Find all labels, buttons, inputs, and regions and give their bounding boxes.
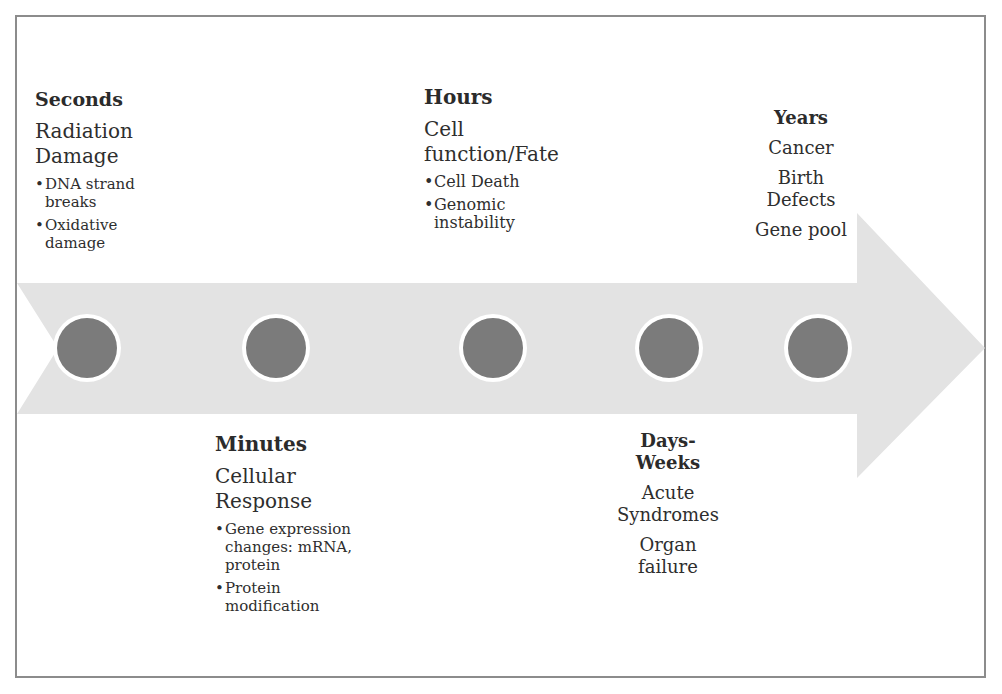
stage-bullets: Cell Death Genomic instability: [424, 173, 544, 232]
stage-subtitle: Radiation Damage: [35, 119, 175, 169]
title-line: Weeks: [608, 452, 728, 474]
stage-item: Gene pool: [745, 219, 857, 241]
subtitle-line: Damage: [35, 144, 175, 169]
stage-bullets: DNA strand breaks Oxidative damage: [35, 175, 155, 252]
subtitle-line: Response: [215, 489, 395, 514]
bullet-item: Protein modification: [215, 579, 325, 615]
stage-item: Cancer: [745, 137, 857, 159]
bullet-item: Genomic instability: [424, 196, 544, 232]
stage-seconds: Seconds Radiation Damage DNA strand brea…: [35, 88, 175, 257]
stage-title: Years: [745, 106, 857, 129]
stage-title: Seconds: [35, 88, 175, 111]
stage-title: Minutes: [215, 433, 395, 456]
stage-bullets: Gene expression changes: mRNA, protein P…: [215, 520, 375, 615]
subtitle-line: Radiation: [35, 119, 175, 144]
stage-item: Organ failure: [633, 534, 703, 578]
bullet-item: Cell Death: [424, 173, 544, 191]
stage-days-weeks: Days- Weeks Acute Syndromes Organ failur…: [608, 430, 728, 578]
bullet-item: DNA strand breaks: [35, 175, 155, 211]
bullet-item: Oxidative damage: [35, 216, 155, 252]
bullet-item: Gene expression changes: mRNA, protein: [215, 520, 375, 574]
stage-minutes: Minutes Cellular Response Gene expressio…: [215, 433, 395, 620]
stage-item: Birth Defects: [761, 167, 841, 211]
title-line: Days-: [608, 430, 728, 452]
stage-title: Hours: [424, 86, 624, 109]
stage-hours: Hours Cell function/Fate Cell Death Geno…: [424, 86, 624, 237]
stage-subtitle: Cell function/Fate: [424, 117, 624, 167]
stage-years: Years Cancer Birth Defects Gene pool: [745, 106, 857, 249]
stage-subtitle: Cellular Response: [215, 464, 395, 514]
subtitle-line: Cell: [424, 117, 624, 142]
subtitle-line: Cellular: [215, 464, 395, 489]
stage-title: Days- Weeks: [608, 430, 728, 474]
subtitle-line: function/Fate: [424, 142, 624, 167]
stage-item: Acute Syndromes: [613, 482, 723, 526]
